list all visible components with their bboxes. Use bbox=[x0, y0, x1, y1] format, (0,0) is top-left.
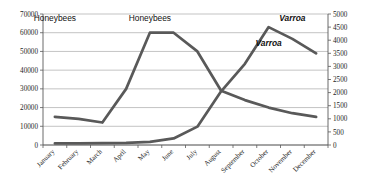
right-axis-tick-label: 0 bbox=[333, 142, 337, 150]
right-axis-tick-label: 1500 bbox=[333, 102, 348, 110]
left-axis-tick-label: 10000 bbox=[20, 123, 38, 131]
annotation-varroa: Varroa bbox=[256, 38, 283, 48]
right-axis-tick-label: 1000 bbox=[333, 115, 348, 123]
left-axis-tick-label: 30000 bbox=[20, 85, 38, 93]
chart-container: 010000200003000040000500006000070000 050… bbox=[0, 0, 374, 193]
right-axis-tick-label: 3000 bbox=[333, 63, 348, 71]
left-axis-tick-label: 50000 bbox=[20, 48, 38, 56]
right-axis-tick-label: 3500 bbox=[333, 50, 348, 58]
annotation-honeybees: Honeybees bbox=[34, 13, 76, 23]
right-axis-tick-label: 5000 bbox=[333, 11, 348, 19]
right-axis-tick-label: 2000 bbox=[333, 89, 348, 97]
chart-background bbox=[0, 0, 374, 193]
line-chart: 010000200003000040000500006000070000 050… bbox=[0, 0, 374, 193]
annotation-varroa: Varroa bbox=[279, 13, 306, 23]
right-axis-tick-label: 2500 bbox=[333, 76, 348, 84]
left-axis-tick-label: 20000 bbox=[20, 104, 38, 112]
right-axis-tick-label: 4500 bbox=[333, 24, 348, 32]
left-axis-tick-label: 40000 bbox=[20, 67, 38, 75]
right-axis-tick-label: 500 bbox=[333, 129, 344, 137]
right-axis-tick-label: 4000 bbox=[333, 37, 348, 45]
left-axis-tick-label: 60000 bbox=[20, 29, 38, 37]
annotation-honeybees: Honeybees bbox=[129, 13, 171, 23]
left-axis-tick-label: 0 bbox=[34, 142, 38, 150]
